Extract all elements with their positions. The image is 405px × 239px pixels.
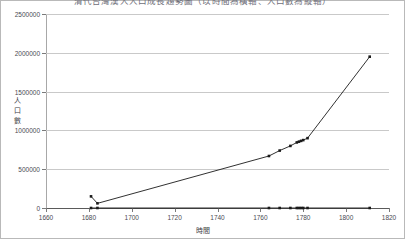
- chart-container: 清代台灣漢人人口成長趨勢圖（以時間為橫軸、人口數為縱軸） 人 口 數 時間 05…: [0, 0, 405, 239]
- x-axis-label: 1660: [39, 214, 53, 221]
- x-axis-tick: [46, 208, 47, 212]
- y-axis-title: 人 口 數: [11, 96, 23, 126]
- x-axis-tick: [346, 208, 347, 212]
- x-axis-tick: [389, 208, 390, 212]
- plot-area: 05000001000000150000020000002500000 1660…: [46, 14, 389, 208]
- x-axis-title: 時間: [0, 225, 405, 235]
- y-axis-label: 500000: [18, 166, 40, 173]
- data-point-marker: [268, 155, 271, 158]
- series-line: [91, 57, 370, 204]
- x-axis-label: 1800: [339, 214, 353, 221]
- data-point-marker: [306, 137, 309, 140]
- data-point-marker: [278, 149, 281, 152]
- y-axis-title-char-1: 口: [11, 106, 23, 116]
- data-point-marker: [278, 207, 281, 210]
- x-axis-tick: [218, 208, 219, 212]
- data-series-layer: [46, 14, 389, 208]
- chart-title: 清代台灣漢人人口成長趨勢圖（以時間為橫軸、人口數為縱軸）: [0, 0, 405, 6]
- x-axis-tick: [132, 208, 133, 212]
- y-axis-label: 2500000: [15, 11, 40, 18]
- x-axis-label: 1740: [210, 214, 224, 221]
- data-point-marker: [368, 207, 371, 210]
- y-axis-title-char-0: 人: [11, 96, 23, 106]
- y-axis-label: 0: [36, 205, 40, 212]
- y-axis-label: 2000000: [15, 49, 40, 56]
- data-point-marker: [302, 207, 305, 210]
- data-point-marker: [268, 207, 271, 210]
- x-axis-label: 1780: [296, 214, 310, 221]
- y-axis-title-char-2: 數: [11, 116, 23, 126]
- x-axis-label: 1820: [382, 214, 396, 221]
- x-axis-label: 1720: [167, 214, 181, 221]
- data-point-marker: [289, 207, 292, 210]
- x-axis-tick: [260, 208, 261, 212]
- data-point-marker: [96, 207, 99, 210]
- y-axis-label: 1500000: [15, 88, 40, 95]
- data-point-marker: [289, 145, 292, 148]
- y-axis-label: 1000000: [15, 127, 40, 134]
- data-point-marker: [90, 207, 93, 210]
- data-point-marker: [96, 202, 99, 205]
- data-point-marker: [368, 55, 371, 58]
- data-point-marker: [306, 207, 309, 210]
- x-axis-label: 1760: [253, 214, 267, 221]
- data-point-marker: [90, 195, 93, 198]
- x-axis-label: 1700: [125, 214, 139, 221]
- x-axis-tick: [175, 208, 176, 212]
- data-point-marker: [302, 139, 305, 142]
- x-axis-label: 1680: [82, 214, 96, 221]
